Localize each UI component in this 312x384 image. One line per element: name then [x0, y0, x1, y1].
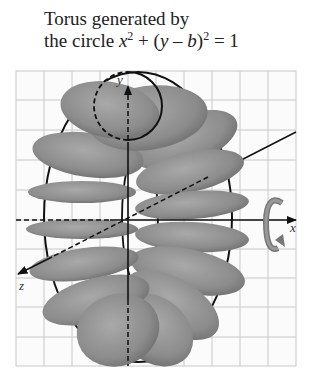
y-axis-label: y: [115, 72, 123, 87]
torus-diagram: y x z: [0, 0, 312, 384]
x-axis-label: x: [289, 220, 296, 235]
z-axis-label: z: [18, 278, 24, 293]
